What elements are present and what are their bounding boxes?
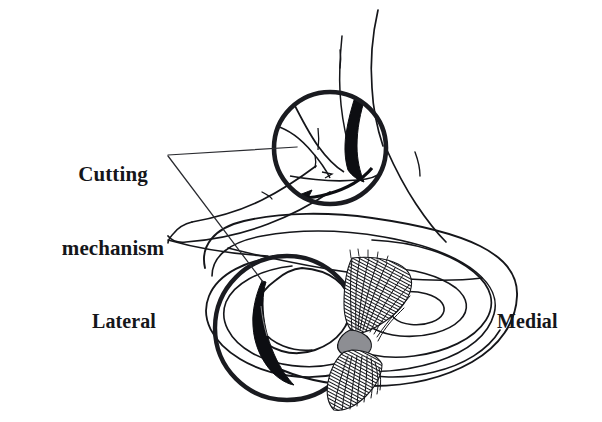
label-cutting-mechanism-line2: mechanism <box>48 236 178 261</box>
label-cutting-mechanism: Cutting mechanism <box>48 112 178 310</box>
label-lateral: Lateral <box>92 310 156 334</box>
knee-crease-lower <box>315 155 316 168</box>
label-cutting-mechanism-line1: Cutting <box>48 162 178 187</box>
label-medial: Medial <box>497 310 558 334</box>
thigh-crease-tick <box>340 50 341 68</box>
knee-crease-upper <box>318 128 319 150</box>
anatomical-figure: Cutting mechanism Lateral Medial <box>0 0 602 422</box>
